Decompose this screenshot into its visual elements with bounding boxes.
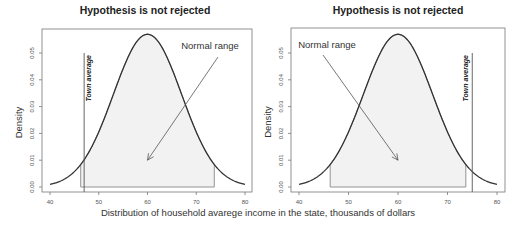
panel-2: Hypothesis is not rejected40506070800.00… <box>262 4 505 205</box>
normal-range-area <box>81 34 215 187</box>
x-tick-label: 60 <box>395 199 402 205</box>
chart-figure: Distribution of household avarege income… <box>0 0 515 227</box>
x-tick-label: 80 <box>494 199 501 205</box>
x-tick-label: 50 <box>345 199 352 205</box>
x-axis-label: Distribution of household avarege income… <box>101 207 415 218</box>
y-tick-label: 0.02 <box>29 127 35 139</box>
y-tick-label: 0.02 <box>278 127 284 139</box>
y-axis-label: Density <box>13 106 24 138</box>
normal-range-label: Normal range <box>181 40 239 51</box>
y-tick-label: 0.01 <box>278 154 284 166</box>
y-tick-label: 0.05 <box>29 47 35 59</box>
y-tick-label: 0.01 <box>29 154 35 166</box>
x-tick-label: 40 <box>47 199 54 205</box>
y-tick-label: 0.03 <box>278 100 284 112</box>
y-tick-label: 0.00 <box>29 181 35 193</box>
town-average-label: Town average <box>462 55 470 102</box>
normal-range-label: Normal range <box>298 39 356 50</box>
y-tick-label: 0.03 <box>29 100 35 112</box>
x-tick-label: 50 <box>95 199 102 205</box>
x-tick-label: 70 <box>444 199 451 205</box>
normal-range-area <box>330 34 466 187</box>
x-tick-label: 40 <box>296 199 303 205</box>
x-tick-label: 60 <box>144 199 151 205</box>
panel-1: Hypothesis is not rejected40506070800.00… <box>13 4 252 205</box>
x-tick-label: 70 <box>193 199 200 205</box>
y-axis-label: Density <box>262 106 273 138</box>
y-tick-label: 0.04 <box>29 73 35 85</box>
town-average-label: Town average <box>85 55 93 102</box>
y-tick-label: 0.00 <box>278 181 284 193</box>
y-tick-label: 0.05 <box>278 47 284 59</box>
y-tick-label: 0.04 <box>278 73 284 85</box>
chart-title: Hypothesis is not rejected <box>80 4 211 16</box>
x-tick-label: 80 <box>242 199 249 205</box>
chart-title: Hypothesis is not rejected <box>333 4 464 16</box>
